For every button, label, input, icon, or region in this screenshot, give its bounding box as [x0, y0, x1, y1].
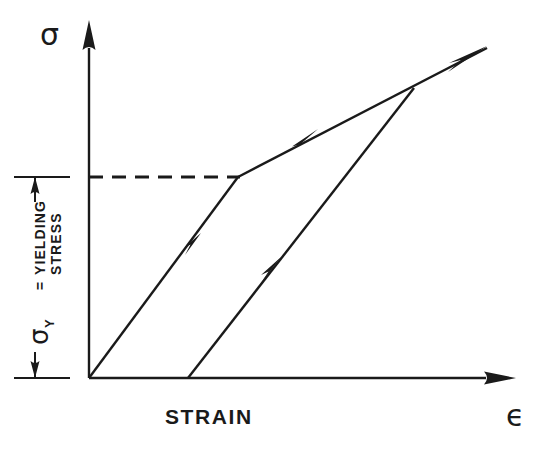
unload-reload-curve: [188, 88, 414, 378]
sigma-subscript-y: Y: [42, 319, 57, 328]
sigma-y-dimension: σ Y = YIELDING STRESS: [14, 177, 70, 378]
sigma-symbol: σ: [24, 329, 54, 345]
stress-strain-diagram-canvas: σ ϵ STRAIN: [0, 0, 554, 452]
strain-axis-symbol: ϵ: [506, 398, 524, 433]
axis-group: [83, 20, 517, 385]
dimension-arrow-lower-head: [31, 361, 40, 378]
yielding-text-line2: STRESS: [48, 212, 64, 275]
sigma-y-symbol-group: σ Y: [24, 319, 57, 345]
dimension-arrow-upper-head: [31, 177, 40, 194]
reload-segment: [188, 88, 414, 378]
yielding-text-line1-word: YIELDING: [32, 200, 48, 275]
initial-elastic-loading-curve: [89, 46, 487, 378]
stress-axis-symbol: σ: [40, 17, 59, 52]
stress-axis-arrowhead: [83, 20, 96, 50]
yielding-text-line1: =: [32, 281, 48, 290]
strain-axis-label: STRAIN: [165, 405, 253, 428]
hardening-segment: [238, 48, 487, 177]
stress-strain-figure: σ ϵ STRAIN: [0, 0, 554, 452]
hardening-direction-arrowhead: [290, 129, 318, 153]
strain-axis-arrowhead: [484, 372, 516, 385]
elastic-segment: [89, 177, 238, 378]
curve-end-arrowhead: [448, 46, 487, 72]
